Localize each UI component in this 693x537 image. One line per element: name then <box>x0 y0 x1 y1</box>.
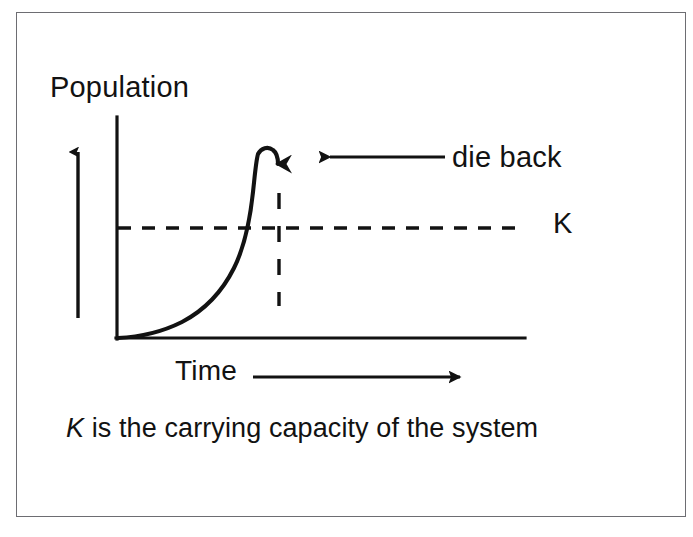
die-back-annotation-label: die back <box>452 143 562 172</box>
carrying-capacity-label: K <box>553 209 573 238</box>
caption-k-symbol: K <box>66 413 84 443</box>
y-axis-label: Population <box>50 73 189 102</box>
figure-root: Population die back K Time K is the carr… <box>0 0 693 537</box>
figure-caption: K is the carrying capacity of the system <box>66 415 538 442</box>
population-growth-curve <box>118 148 278 338</box>
x-axis-label: Time <box>175 357 237 385</box>
caption-text: is the carrying capacity of the system <box>84 413 538 443</box>
